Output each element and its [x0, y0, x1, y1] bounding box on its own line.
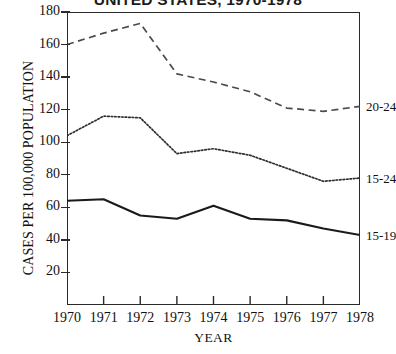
series-line-20-24	[67, 23, 360, 111]
y-tick-mark	[61, 174, 70, 175]
y-tick-mark	[61, 239, 70, 240]
y-tick-mark	[61, 76, 70, 77]
series-label-20-24: 20-24	[366, 100, 396, 113]
y-axis-title: CASES PER 100,000 POPULATION	[21, 43, 37, 293]
y-tick-label: 160	[39, 37, 60, 51]
series-label-15-19: 15-19	[366, 229, 396, 242]
y-tick-label: 140	[39, 69, 60, 83]
y-tick-label: 60	[46, 199, 60, 213]
y-tick-label: 40	[46, 232, 60, 246]
plot-area	[67, 12, 360, 305]
y-tick-mark	[61, 11, 70, 12]
series-label-15-24: 15-24	[366, 172, 396, 185]
y-tick-mark	[61, 272, 70, 273]
y-tick-mark	[61, 44, 70, 45]
y-tick-label: 180	[39, 4, 60, 18]
y-tick-label: 120	[39, 102, 60, 116]
y-tick-label: 20	[46, 264, 60, 278]
series-line-15-19	[67, 199, 360, 235]
y-tick-label: 80	[46, 167, 60, 181]
x-axis-title: YEAR	[67, 330, 360, 346]
y-tick-mark	[61, 207, 70, 208]
chart-figure: UNITED STATES, 1970-1978 CASES PER 100,0…	[0, 0, 396, 354]
series-line-15-24	[67, 116, 360, 181]
x-tick-label: 1978	[330, 310, 390, 326]
y-tick-mark	[61, 142, 70, 143]
y-tick-label: 100	[39, 134, 60, 148]
y-tick-mark	[61, 109, 70, 110]
